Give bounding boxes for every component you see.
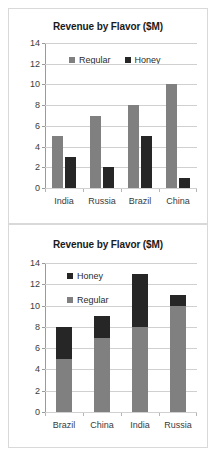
stacked-chart-x-tick-mark bbox=[121, 413, 122, 416]
grouped-chart-x-tick-mark bbox=[121, 189, 122, 192]
stacked-chart-stacked-bar bbox=[94, 316, 111, 412]
stacked-chart-gridline bbox=[45, 263, 197, 264]
stacked-chart-x-axis-label: Russia bbox=[164, 420, 192, 430]
grouped-chart-y-tick-mark bbox=[42, 84, 45, 85]
grouped-chart-x-axis-label: Brazil bbox=[129, 196, 152, 206]
legend-swatch-regular-icon bbox=[69, 57, 75, 63]
grouped-chart-y-tick-mark bbox=[42, 43, 45, 44]
grouped-chart-y-tick-mark bbox=[42, 105, 45, 106]
grouped-chart-bar-regular bbox=[166, 84, 177, 188]
grouped-chart-bar-honey bbox=[65, 157, 76, 188]
grouped-chart-bar-regular bbox=[52, 136, 63, 188]
stacked-chart-y-axis-label: 8 bbox=[35, 322, 40, 332]
legend-label-honey: Honey bbox=[77, 271, 103, 281]
stacked-chart-y-axis-label: 10 bbox=[30, 301, 40, 311]
stacked-chart-segment-honey bbox=[56, 327, 73, 359]
stacked-chart-y-axis-label: 0 bbox=[35, 407, 40, 417]
grouped-chart-y-axis-label: 2 bbox=[35, 162, 40, 172]
grouped-chart-x-tick-mark bbox=[45, 189, 46, 192]
grouped-chart-bar-honey bbox=[103, 167, 114, 188]
grouped-chart-y-tick-mark bbox=[42, 167, 45, 168]
stacked-chart-legend: Honey Regular bbox=[67, 271, 109, 305]
grouped-chart-y-tick-mark bbox=[42, 126, 45, 127]
stacked-bar-chart-panel: Revenue by Flavor ($M) Honey Regular 024… bbox=[8, 224, 208, 448]
grouped-chart-y-tick-mark bbox=[42, 64, 45, 65]
stacked-chart-segment-regular bbox=[94, 338, 111, 412]
stacked-chart-y-tick-mark bbox=[42, 263, 45, 264]
grouped-chart-y-axis-label: 8 bbox=[35, 100, 40, 110]
stacked-chart-y-axis-label: 2 bbox=[35, 386, 40, 396]
grouped-chart-y-axis-label: 10 bbox=[30, 79, 40, 89]
grouped-chart-bar-regular bbox=[128, 105, 139, 188]
grouped-chart-x-axis-label: China bbox=[166, 196, 190, 206]
legend-label-regular: Regular bbox=[77, 295, 109, 305]
grouped-chart-bar-honey bbox=[141, 136, 152, 188]
stacked-chart-x-tick-mark bbox=[45, 413, 46, 416]
stacked-chart-y-axis-label: 4 bbox=[35, 364, 40, 374]
grouped-chart-bar-honey bbox=[179, 178, 190, 188]
stacked-chart-segment-regular bbox=[132, 327, 149, 412]
stacked-chart-y-tick-mark bbox=[42, 306, 45, 307]
stacked-chart-segment-honey bbox=[170, 295, 187, 306]
grouped-chart-y-axis-label: 6 bbox=[35, 121, 40, 131]
grouped-chart-plot-area: Regular Honey 02468101214IndiaRussiaBraz… bbox=[45, 43, 197, 189]
legend-swatch-honey-icon bbox=[67, 273, 73, 279]
grouped-chart-x-tick-mark bbox=[83, 189, 84, 192]
stacked-chart-x-tick-mark bbox=[159, 413, 160, 416]
stacked-chart-segment-regular bbox=[56, 359, 73, 412]
stacked-chart-segment-honey bbox=[132, 274, 149, 327]
grouped-chart-y-axis-label: 14 bbox=[30, 38, 40, 48]
grouped-chart-title: Revenue by Flavor ($M) bbox=[9, 21, 207, 32]
grouped-chart-x-tick-mark bbox=[159, 189, 160, 192]
grouped-chart-y-tick-mark bbox=[42, 147, 45, 148]
legend-swatch-honey-icon bbox=[125, 57, 131, 63]
grouped-chart-x-axis-label: India bbox=[54, 196, 74, 206]
grouped-chart-gridline bbox=[45, 64, 197, 65]
legend-swatch-regular-icon bbox=[67, 297, 73, 303]
stacked-chart-segment-honey bbox=[94, 316, 111, 337]
stacked-chart-y-tick-mark bbox=[42, 348, 45, 349]
grouped-bar-chart-panel: Revenue by Flavor ($M) Regular Honey 024… bbox=[8, 8, 208, 224]
chart-sheet: Revenue by Flavor ($M) Regular Honey 024… bbox=[0, 0, 216, 464]
grouped-chart-y-axis-label: 12 bbox=[30, 59, 40, 69]
stacked-chart-y-tick-mark bbox=[42, 327, 45, 328]
stacked-chart-segment-regular bbox=[170, 306, 187, 412]
stacked-chart-plot-area: Honey Regular 02468101214BrazilChinaIndi… bbox=[45, 263, 197, 413]
stacked-chart-x-axis-label: Brazil bbox=[53, 420, 76, 430]
stacked-chart-x-axis-label: China bbox=[90, 420, 114, 430]
grouped-chart-y-axis-label: 0 bbox=[35, 183, 40, 193]
stacked-chart-y-axis-label: 14 bbox=[30, 258, 40, 268]
stacked-chart-gridline bbox=[45, 284, 197, 285]
stacked-chart-y-tick-mark bbox=[42, 369, 45, 370]
stacked-chart-x-tick-mark bbox=[83, 413, 84, 416]
grouped-chart-bar-regular bbox=[90, 116, 101, 189]
stacked-chart-title: Revenue by Flavor ($M) bbox=[9, 239, 207, 250]
grouped-chart-y-axis-label: 4 bbox=[35, 142, 40, 152]
grouped-chart-gridline bbox=[45, 43, 197, 44]
grouped-chart-x-axis-label: Russia bbox=[88, 196, 116, 206]
stacked-chart-y-tick-mark bbox=[42, 284, 45, 285]
stacked-chart-stacked-bar bbox=[132, 274, 149, 412]
stacked-chart-stacked-bar bbox=[56, 327, 73, 412]
stacked-chart-x-axis-label: India bbox=[130, 420, 150, 430]
legend-item-regular: Regular bbox=[67, 295, 109, 305]
stacked-chart-y-axis-label: 12 bbox=[30, 279, 40, 289]
stacked-chart-y-tick-mark bbox=[42, 391, 45, 392]
grouped-chart-x-tick-mark bbox=[196, 189, 197, 192]
stacked-chart-stacked-bar bbox=[170, 295, 187, 412]
stacked-chart-x-tick-mark bbox=[196, 413, 197, 416]
stacked-chart-y-axis-label: 6 bbox=[35, 343, 40, 353]
legend-item-honey: Honey bbox=[67, 271, 109, 281]
